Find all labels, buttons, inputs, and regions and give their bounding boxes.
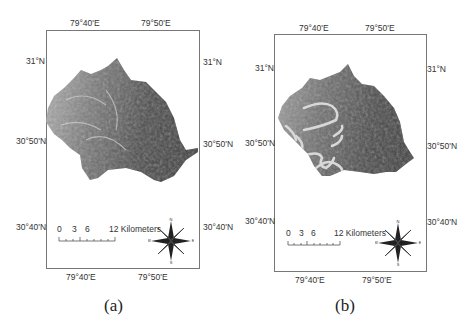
panel-caption-a: (a) [104,296,123,316]
left-lat-label-1: 31°N [255,63,274,73]
north-arrow-icon: N S E W [375,220,421,266]
right-lat-label-3: 30°40'N [427,217,457,227]
bottom-lon-label-1: 79°40'E [295,275,325,285]
right-lat-label-1: 31°N [203,57,222,67]
svg-text:N: N [397,220,400,224]
left-lat-label-2: 30°50'N [245,138,275,148]
svg-text:S: S [397,262,400,266]
map-panel-a: 79°40'E 79°50'E 79°40'E 79°50'E 31°N 30°… [0,0,235,330]
bottom-lon-label-2: 79°50'E [362,275,392,285]
svg-text:E: E [419,240,421,245]
left-lat-label-3: 30°40'N [16,222,46,232]
top-lon-label-1: 79°40'E [70,18,100,28]
scale-tick-6: 6 [85,224,90,234]
svg-text:E: E [192,238,194,243]
panel-caption-b: (b) [335,296,355,316]
map-panel-b: 79°40'E 79°50'E 79°40'E 79°50'E 31°N 30°… [235,0,471,330]
svg-text:W: W [375,240,378,245]
scale-tick-0: 0 [57,224,62,234]
left-lat-label-1: 31°N [26,56,45,66]
right-lat-label-3: 30°40'N [203,222,233,232]
top-lon-label-1: 79°40'E [299,23,329,33]
top-lon-label-2: 79°50'E [141,18,171,28]
scale-tick-0: 0 [286,228,291,238]
svg-text:N: N [170,218,173,222]
svg-text:S: S [170,260,173,264]
scale-tick-3: 3 [72,224,77,234]
scale-tick-6: 6 [311,228,316,238]
right-lat-label-2: 30°50'N [203,139,233,149]
right-lat-label-1: 31°N [427,64,446,74]
svg-text:W: W [148,238,151,243]
bottom-lon-label-1: 79°40'E [66,272,96,282]
right-lat-label-2: 30°50'N [427,141,457,151]
left-lat-label-2: 30°50'N [16,136,46,146]
bottom-lon-label-2: 79°50'E [138,272,168,282]
left-lat-label-3: 30°40'N [245,216,275,226]
top-lon-label-2: 79°50'E [365,23,395,33]
north-arrow-icon: N S E W [148,218,194,264]
scale-tick-3: 3 [299,228,304,238]
